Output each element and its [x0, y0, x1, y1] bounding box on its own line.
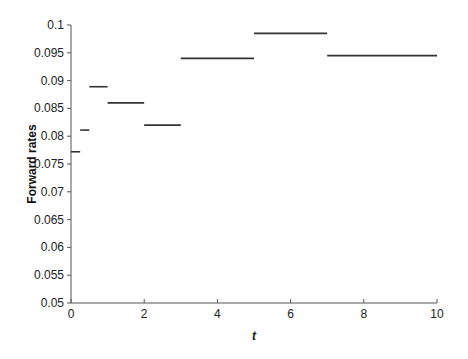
- y-tick-label: 0.095: [34, 46, 64, 60]
- y-axis-label: Forward rates: [25, 124, 39, 204]
- x-tick-label: 4: [214, 307, 221, 321]
- y-tick-label: 0.065: [34, 213, 64, 227]
- y-axis: 0.050.0550.060.0650.070.0750.080.0850.09…: [34, 18, 71, 310]
- y-tick-label: 0.05: [41, 296, 65, 310]
- forward-rates-chart: 0.050.0550.060.0650.070.0750.080.0850.09…: [0, 0, 468, 359]
- x-tick-label: 8: [360, 307, 367, 321]
- y-tick-label: 0.06: [41, 240, 65, 254]
- y-tick-label: 0.07: [41, 185, 65, 199]
- y-tick-label: 0.1: [47, 18, 64, 32]
- x-tick-label: 10: [430, 307, 444, 321]
- x-tick-label: 6: [287, 307, 294, 321]
- x-tick-label: 2: [141, 307, 148, 321]
- y-tick-label: 0.08: [41, 129, 65, 143]
- x-axis: 0246810: [68, 299, 444, 321]
- x-tick-label: 0: [68, 307, 75, 321]
- y-tick-label: 0.055: [34, 268, 64, 282]
- y-tick-label: 0.09: [41, 74, 65, 88]
- x-axis-label: t: [252, 329, 257, 343]
- series-forward-rates: [71, 33, 437, 151]
- y-tick-label: 0.085: [34, 101, 64, 115]
